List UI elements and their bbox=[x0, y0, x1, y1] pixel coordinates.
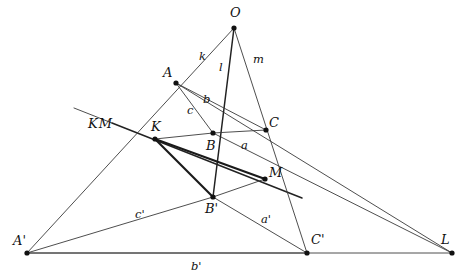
vertex-dot-O bbox=[231, 25, 236, 30]
side-b-extended-to-L bbox=[176, 83, 452, 253]
vertex-dot-B bbox=[210, 130, 215, 135]
vertex-dot-M bbox=[262, 176, 267, 181]
point-label-K: K bbox=[151, 120, 161, 133]
point-label-B-prime: B' bbox=[205, 202, 218, 215]
side-a-prime-of-triangle bbox=[213, 197, 307, 253]
vertex-dot-C-prime bbox=[304, 250, 309, 255]
point-label-M: M bbox=[269, 166, 282, 179]
vertex-dot-A-prime bbox=[24, 250, 29, 255]
vertex-dot-A bbox=[173, 80, 178, 85]
side-a-extended-to-L bbox=[213, 133, 452, 253]
segment-label-b-prime: b' bbox=[191, 261, 202, 273]
point-label-A: A bbox=[163, 66, 172, 79]
point-label-C: C bbox=[269, 116, 279, 129]
point-label-L: L bbox=[441, 233, 450, 246]
side-c-of-triangle-ABC bbox=[176, 83, 213, 133]
vertex-dot-B-prime bbox=[210, 194, 215, 199]
segment-label-c-prime: c' bbox=[135, 209, 145, 221]
segment-label-c: c bbox=[187, 105, 193, 117]
axis-chord-K-to-B bbox=[155, 133, 213, 139]
axis-chord-B-prime-to-M bbox=[213, 179, 265, 197]
side-c-prime-of-triangle bbox=[27, 197, 213, 253]
vertex-dot-L bbox=[449, 250, 454, 255]
point-label-A-prime: A' bbox=[13, 234, 26, 247]
point-label-B: B bbox=[206, 139, 216, 152]
vertex-dots-group bbox=[24, 25, 454, 255]
vertex-dot-K bbox=[152, 136, 157, 141]
geometry-figure: OABCKMA'B'C'L klmbcac'a'b' KM bbox=[0, 0, 475, 278]
segment-label-a: a bbox=[241, 140, 248, 152]
segment-label-k: k bbox=[199, 51, 206, 63]
point-label-O: O bbox=[230, 6, 241, 19]
perspective-axis-extended-KM bbox=[112, 123, 302, 198]
point-label-C-prime: C' bbox=[311, 233, 325, 246]
axis-chord-K-to-B-prime bbox=[155, 139, 213, 197]
vertex-dot-C bbox=[263, 127, 268, 132]
line-name-KM: KM bbox=[88, 117, 113, 130]
segment-label-m: m bbox=[253, 54, 264, 66]
segment-label-b: b bbox=[203, 94, 210, 106]
extended-lines-group bbox=[27, 83, 452, 253]
segment-label-l: l bbox=[219, 62, 223, 74]
segment-label-a-prime: a' bbox=[261, 214, 271, 226]
ray-l-through-B-and-B-prime bbox=[213, 28, 234, 197]
diagram-canvas bbox=[0, 0, 475, 278]
